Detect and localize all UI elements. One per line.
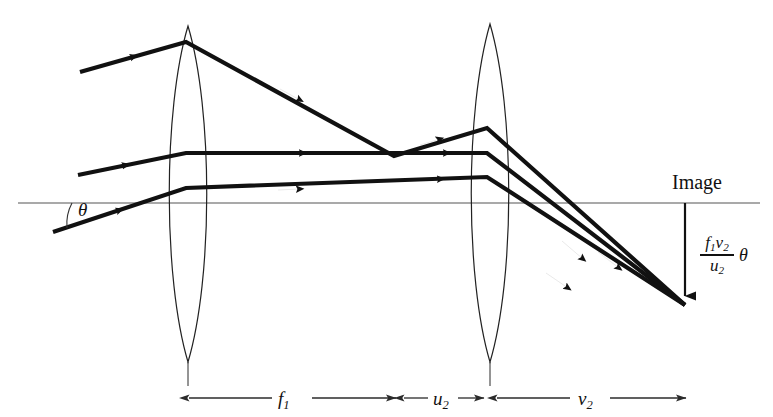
- dimension-symbol-u2: u: [433, 388, 443, 409]
- formula-fraction: f1v2 u2 θ: [700, 234, 748, 276]
- lens-1: [169, 26, 207, 362]
- numerator-v-subscript: 2: [723, 241, 729, 253]
- denominator-u-subscript: 2: [718, 264, 724, 276]
- image-label: Image: [672, 172, 722, 192]
- dimension-label-v2: v2: [578, 389, 593, 411]
- formula-theta: θ: [739, 246, 748, 264]
- ray-bottom: [53, 177, 685, 305]
- lens-2: [471, 24, 509, 362]
- fraction-stack: f1v2 u2: [700, 234, 734, 276]
- ray-top-arrowheads: [118, 57, 583, 260]
- fraction-numerator: f1v2: [703, 234, 731, 254]
- dimension-subscript-u2: 2: [443, 398, 449, 412]
- dimension-subscript-v2: 2: [586, 398, 592, 412]
- theta-angle-label: θ: [78, 200, 87, 219]
- ray-top: [80, 42, 685, 305]
- ray-diagram-figure: Image θ f1v2 u2 θ f1 u2 v2: [0, 0, 773, 417]
- dimension-subscript-f1: 1: [283, 398, 289, 412]
- ray-diagram-canvas: [0, 0, 773, 417]
- numerator-v: v: [716, 233, 724, 252]
- dimension-label-u2: u2: [433, 389, 449, 411]
- image-height-formula: f1v2 u2 θ: [700, 234, 748, 276]
- fraction-denominator: u2: [708, 256, 726, 276]
- dimension-label-f1: f1: [278, 389, 290, 411]
